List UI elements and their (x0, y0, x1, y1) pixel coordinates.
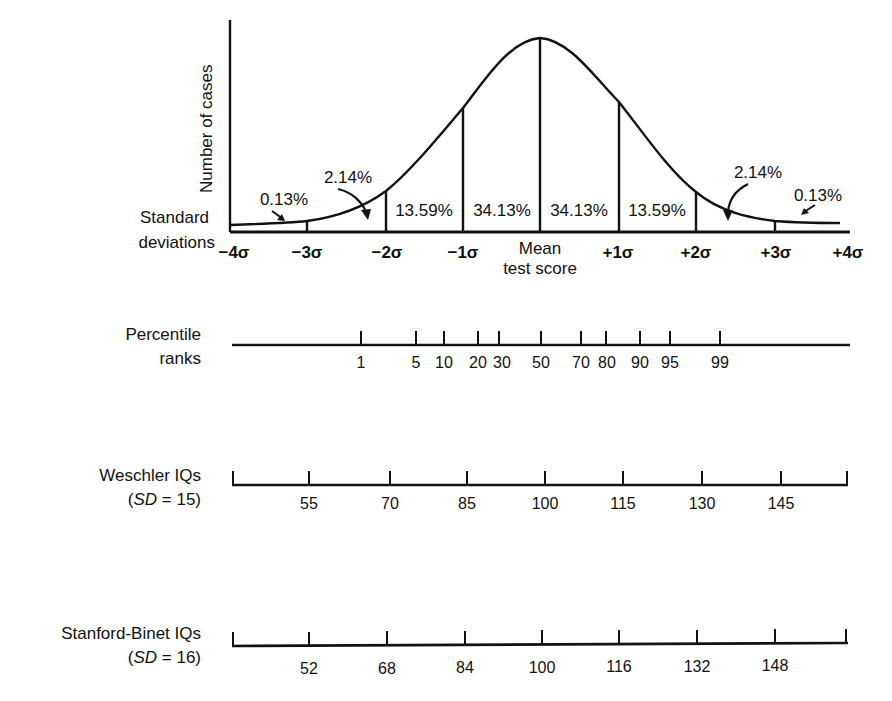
stanford-tick: 148 (762, 657, 789, 674)
percentile-scale: Percentile ranks 1 5 10 20 30 50 70 80 9… (125, 325, 850, 371)
pct-thirteen-left: 13.59% (395, 201, 453, 220)
arrow-head-two-right (723, 210, 733, 221)
pct-two-left: 2.14% (324, 168, 372, 187)
normal-curve (230, 38, 840, 225)
weschler-tick: 70 (381, 495, 399, 512)
stanford-tick: 116 (606, 658, 632, 675)
stanford-tick: 132 (684, 658, 711, 675)
stanford-axis (232, 643, 848, 646)
sigma-label-plus3: +3σ (760, 243, 791, 262)
bell-curve-chart (230, 20, 850, 232)
pct-thirtyfour-right: 34.13% (550, 201, 608, 220)
percentile-tick: 1 (357, 354, 366, 371)
stanford-label-line1: Stanford-Binet IQs (61, 624, 201, 643)
pct-tail-right: 0.13% (794, 186, 842, 205)
stanford-tick: 100 (529, 659, 556, 676)
std-dev-label-line2: deviations (138, 233, 215, 252)
weschler-tick: 115 (610, 495, 636, 512)
weschler-label-line1: Weschler IQs (99, 466, 201, 485)
weschler-scale: Weschler IQs (SD = 15) 55 70 85 100 115 … (99, 466, 848, 512)
percentile-tick: 90 (631, 354, 649, 371)
percentile-tick: 50 (532, 354, 550, 371)
percentile-label-line2: ranks (159, 349, 201, 368)
stanford-tick: 84 (456, 659, 474, 676)
weschler-tick: 145 (768, 495, 795, 512)
arrow-two-right (728, 184, 748, 212)
percentile-label-line1: Percentile (125, 325, 201, 344)
stanford-binet-scale: Stanford-Binet IQs (SD = 16) 52 68 84 10… (61, 624, 848, 677)
percentile-tick: 20 (469, 354, 487, 371)
sigma-label-plus4: +4σ (832, 243, 863, 262)
sigma-label-minus3: −3σ (291, 243, 322, 262)
stanford-tick: 52 (300, 660, 318, 677)
y-axis-label: Number of cases (197, 65, 216, 194)
sigma-label-plus1: +1σ (602, 243, 633, 262)
mean-label: Mean (519, 239, 562, 258)
pct-tail-left: 0.13% (260, 190, 308, 209)
percentile-tick: 70 (572, 354, 590, 371)
percentile-tick: 30 (493, 354, 511, 371)
sigma-label-minus4: −4σ (218, 243, 249, 262)
weschler-tick: 100 (532, 495, 559, 512)
stanford-label-line2: (SD = 16) (128, 648, 201, 667)
percentile-tick: 99 (711, 354, 729, 371)
normal-curve-diagram: Number of cases Standard deviations −4σ … (0, 0, 892, 701)
weschler-label-line2: (SD = 15) (128, 490, 201, 509)
pct-thirtyfour-left: 34.13% (473, 201, 531, 220)
sigma-label-minus2: −2σ (371, 243, 402, 262)
percentile-tick: 95 (661, 354, 679, 371)
sigma-label-plus2: +2σ (680, 243, 711, 262)
sigma-label-minus1: −1σ (447, 243, 478, 262)
stanford-tick: 68 (378, 660, 396, 677)
percentile-tick: 5 (412, 354, 421, 371)
std-dev-label-line1: Standard (140, 208, 209, 227)
percentile-tick: 80 (598, 354, 616, 371)
weschler-tick: 85 (458, 495, 476, 512)
arrow-head-two-left (361, 209, 371, 220)
weschler-tick: 55 (300, 495, 318, 512)
pct-thirteen-right: 13.59% (628, 201, 686, 220)
test-score-label: test score (503, 259, 577, 278)
weschler-tick: 130 (689, 495, 716, 512)
percentile-tick: 10 (435, 354, 453, 371)
pct-two-right: 2.14% (734, 163, 782, 182)
